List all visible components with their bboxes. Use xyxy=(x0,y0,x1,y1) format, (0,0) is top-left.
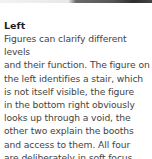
caption-line: other two explain the booths xyxy=(4,124,152,137)
caption-line: the left identifies a stair, which xyxy=(4,72,152,85)
caption-line: looks up through a void, the xyxy=(4,111,152,124)
caption-line: is not itself visible, the figure xyxy=(4,85,152,98)
caption-line: and their function. The figure on xyxy=(4,58,152,71)
caption-line: Figures can clarify different levels xyxy=(4,32,152,58)
caption-line: and access to them. All four xyxy=(4,138,152,151)
caption-line: in the bottom right obviously xyxy=(4,98,152,111)
figure-image-strip xyxy=(0,0,152,3)
caption-body: Figures can clarify different levels and… xyxy=(4,32,152,159)
caption-title: Left xyxy=(4,19,152,32)
caption-line: are deliberately in soft focus. xyxy=(4,151,152,159)
figure-caption: Left Figures can clarify different level… xyxy=(4,19,152,159)
